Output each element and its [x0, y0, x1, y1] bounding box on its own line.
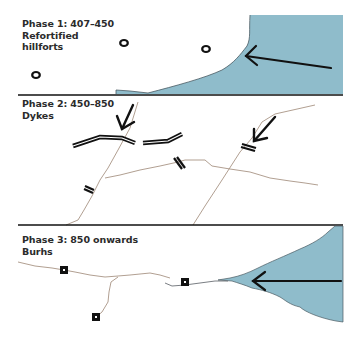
burh-markers [60, 266, 189, 321]
roads [18, 262, 228, 317]
road [18, 262, 170, 278]
phase-3-title: Phase 3: 850 onwards [22, 234, 138, 246]
phase-1-label: Phase 1: 407–450 Refortified hillforts [22, 18, 114, 53]
phase-1-sea [116, 15, 343, 94]
invasion-arrow-icon [117, 105, 134, 129]
burh-icon [60, 266, 68, 274]
burh-icon [181, 278, 189, 286]
hillfort-icon [202, 46, 210, 52]
road [96, 277, 118, 317]
phase-3-estuary [218, 226, 343, 322]
dyke-lines [73, 134, 182, 146]
hillfort-icon [32, 72, 40, 78]
phase-1-subtitle-line-2: hillforts [22, 41, 114, 53]
phase-3-label: Phase 3: 850 onwards Burhs [22, 234, 138, 257]
road [105, 160, 318, 185]
river [165, 281, 228, 286]
phase-2-title: Phase 2: 450–850 [22, 98, 114, 110]
phase-1-subtitle-line-1: Refortified [22, 30, 114, 42]
burh-icon [92, 313, 100, 321]
hillfort-icon [120, 40, 128, 46]
phase-2-label: Phase 2: 450–850 Dykes [22, 98, 114, 121]
dyke-crossings [84, 144, 256, 193]
phase-3-subtitle-line-1: Burhs [22, 246, 138, 258]
phase-2-subtitle-line-1: Dykes [22, 110, 114, 122]
phase-1-title: Phase 1: 407–450 [22, 18, 114, 30]
dyke [73, 137, 135, 146]
